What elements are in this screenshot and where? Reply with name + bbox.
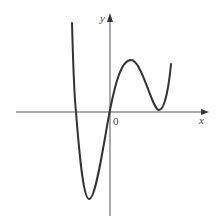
function-curve <box>72 23 171 199</box>
y-axis-label: y <box>99 12 105 24</box>
x-axis-label: x <box>198 114 204 126</box>
y-axis-arrow-icon <box>107 13 113 22</box>
origin-label: 0 <box>113 115 119 127</box>
graph: y x 0 <box>0 0 218 218</box>
